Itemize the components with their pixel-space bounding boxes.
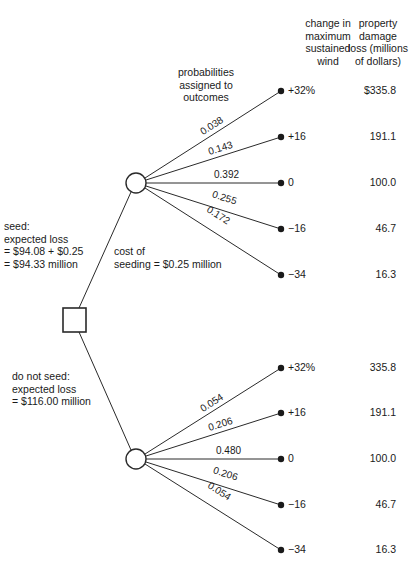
seed-chance-node-circle [126,173,146,193]
damage-header: property damage loss (millions of dollar… [340,17,412,67]
no-seed-loss-3: 100.0 [356,452,396,464]
note-line: probabilities [166,66,246,79]
seed-loss-5: 16.3 [356,268,396,280]
label-line: seed: [4,220,83,233]
label-line: do not seed: [12,370,91,383]
label-line: = $116.00 million [12,395,91,408]
seed-probability-3: 0.392 [214,169,239,180]
probabilities-note: probabilities assigned to outcomes [166,66,246,104]
label-line: seeding = $0.25 million [114,258,222,271]
seed-expected-loss-label: seed: expected loss = $94.08 + $0.25 = $… [4,220,83,270]
seed-wind-5: −34 [288,268,306,280]
seed-loss-3: 100.0 [356,176,396,188]
seed-loss-4: 46.7 [356,222,396,234]
no-seed-wind-4: −16 [288,498,306,510]
no-seed-expected-loss-label: do not seed: expected loss = $116.00 mil… [12,370,91,408]
no-seed-loss-4: 46.7 [356,498,396,510]
no-seed-wind-1: +32% [288,361,315,373]
seed-wind-2: +16 [288,130,306,142]
header-line: loss (millions [340,42,412,55]
label-line: expected loss [12,383,91,396]
seed-wind-3: 0 [288,176,294,188]
no-seed-wind-5: −34 [288,543,306,555]
no-seed-terminal-dots [278,365,284,553]
seed-loss-2: 191.1 [356,130,396,142]
no-seed-wind-2: +16 [288,406,306,418]
no-seed-probability-3: 0.480 [216,445,241,456]
seed-wind-4: −16 [288,222,306,234]
header-line: property [340,17,412,30]
header-line: damage [340,30,412,43]
note-line: outcomes [166,91,246,104]
label-line: = $94.33 million [4,258,83,271]
seed-loss-1: $335.8 [356,84,396,96]
seed-terminal-dots [278,88,284,278]
seed-wind-1: +32% [288,84,315,96]
no-seed-loss-5: 16.3 [356,543,396,555]
label-line: cost of [114,245,222,258]
decision-node-square [63,308,86,332]
label-line: expected loss [4,233,83,246]
seeding-cost-label: cost of seeding = $0.25 million [114,245,222,270]
no-seed-wind-3: 0 [288,452,294,464]
no-seed-loss-1: 335.8 [356,361,396,373]
label-line: = $94.08 + $0.25 [4,245,83,258]
no-seed-chance-node-circle [126,449,146,469]
no-seed-loss-2: 191.1 [356,406,396,418]
header-line: of dollars) [340,55,412,68]
note-line: assigned to [166,79,246,92]
